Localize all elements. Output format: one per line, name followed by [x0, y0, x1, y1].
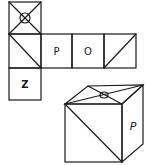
cube-top-face [65, 85, 143, 104]
net-face-o: O [72, 34, 104, 68]
cube-net-diagram: P O Z P [0, 0, 146, 165]
net-face-p: P [41, 34, 72, 68]
folded-cube: P [65, 85, 143, 162]
face-label-o: O [84, 46, 92, 57]
cube-front-face [65, 104, 122, 162]
face-label-p: P [53, 46, 59, 57]
net-face-middle-right [104, 34, 136, 68]
net-face-middle-left [9, 34, 41, 68]
net-face-top [9, 2, 41, 34]
net-face-bottom: Z [9, 68, 41, 100]
face-label-p: P [130, 120, 137, 133]
cube-right-face: P [122, 85, 143, 162]
face-label-z: Z [21, 79, 28, 90]
